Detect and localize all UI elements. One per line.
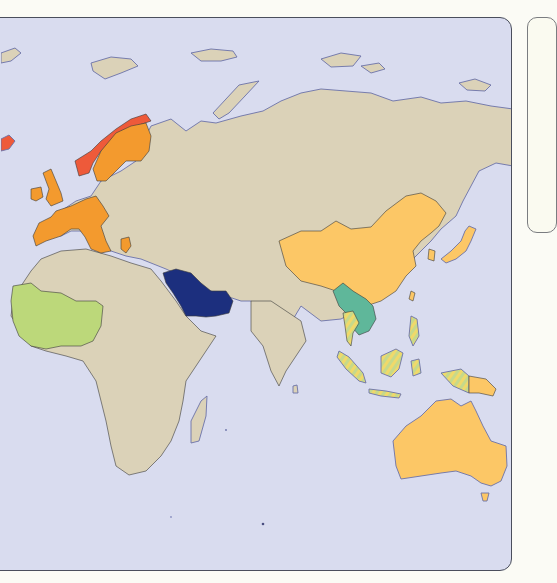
japan [441, 226, 476, 263]
island-dot [225, 429, 227, 431]
madagascar [191, 396, 207, 443]
borneo [381, 349, 403, 377]
india [251, 301, 306, 386]
map-panel[interactable] [0, 17, 512, 571]
tasmania [481, 493, 489, 501]
sri-lanka [293, 385, 298, 393]
legend-panel [527, 17, 557, 233]
java [369, 389, 401, 398]
iceland [1, 135, 15, 151]
west-new-guinea [441, 369, 469, 393]
south-korea [428, 249, 435, 261]
australia [393, 399, 507, 486]
island-dot [170, 516, 172, 518]
ireland [31, 187, 43, 201]
taiwan [409, 291, 415, 301]
papua-new-guinea [469, 376, 496, 396]
island-dot [262, 523, 265, 526]
world-map[interactable] [1, 17, 512, 571]
sumatra [337, 351, 366, 383]
great-britain [43, 169, 63, 206]
sulawesi [411, 359, 421, 376]
philippines [409, 316, 419, 346]
